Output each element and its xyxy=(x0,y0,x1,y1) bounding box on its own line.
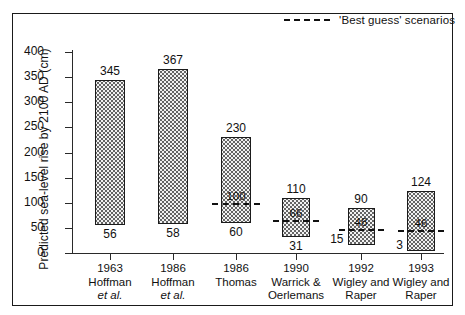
x-tick xyxy=(421,253,422,260)
x-tick xyxy=(236,253,237,260)
bar-high-value-label: 345 xyxy=(80,64,140,78)
bar-low-value-label: 15 xyxy=(314,232,344,246)
y-tick-label: 400 xyxy=(10,44,44,58)
x-category-line: 1993 xyxy=(381,262,461,276)
bar-low-value-label: 58 xyxy=(143,226,203,240)
bar xyxy=(158,69,188,224)
x-tick xyxy=(361,253,362,260)
best-guess-line xyxy=(212,203,260,205)
y-tick-label: 250 xyxy=(10,119,44,133)
bar-high-value-label: 90 xyxy=(331,192,391,206)
y-tick xyxy=(65,178,73,179)
bar-high-value-label: 124 xyxy=(391,175,451,189)
y-tick xyxy=(65,127,73,128)
y-tick xyxy=(65,77,73,78)
y-tick xyxy=(65,52,73,53)
best-guess-line xyxy=(398,230,444,232)
x-tick xyxy=(110,253,111,260)
y-tick-label: 0 xyxy=(10,245,44,259)
y-tick-label: 350 xyxy=(10,69,44,83)
y-tick xyxy=(65,228,73,229)
y-tick-label: 150 xyxy=(10,170,44,184)
best-guess-value-label: 66 xyxy=(271,207,321,219)
x-axis-line xyxy=(72,253,444,254)
y-tick-label: 50 xyxy=(10,220,44,234)
x-category-line: Raper xyxy=(381,289,461,303)
bar-high-value-label: 367 xyxy=(143,53,203,67)
x-category-label: 1993Wigley andRaper xyxy=(381,262,461,303)
bar-low-value-label: 60 xyxy=(206,225,266,239)
y-tick xyxy=(65,102,73,103)
bar-high-value-label: 230 xyxy=(206,121,266,135)
y-tick-label: 200 xyxy=(10,145,44,159)
bar xyxy=(221,137,251,222)
bar-low-value-label: 3 xyxy=(373,238,403,252)
bar xyxy=(95,80,125,225)
figure-container: 'Best guess' scenarios Predicted sea-lev… xyxy=(0,0,465,315)
bar-high-value-label: 110 xyxy=(266,182,326,196)
plot-area: Predicted sea-level rise by 2100 AD (cm)… xyxy=(0,0,465,315)
bar-low-value-label: 56 xyxy=(80,227,140,241)
best-guess-value-label: 46 xyxy=(396,217,446,229)
y-tick xyxy=(65,203,73,204)
best-guess-line xyxy=(273,220,319,222)
y-tick xyxy=(65,153,73,154)
y-tick-label: 300 xyxy=(10,94,44,108)
x-tick xyxy=(173,253,174,260)
x-category-line: et al. xyxy=(133,289,213,303)
y-tick-label: 100 xyxy=(10,195,44,209)
x-category-line: Wigley and xyxy=(381,276,461,290)
best-guess-line xyxy=(339,229,384,231)
best-guess-value-label: 48 xyxy=(336,216,386,228)
x-tick xyxy=(296,253,297,260)
y-tick xyxy=(65,253,73,254)
best-guess-value-label: 100 xyxy=(211,190,261,202)
